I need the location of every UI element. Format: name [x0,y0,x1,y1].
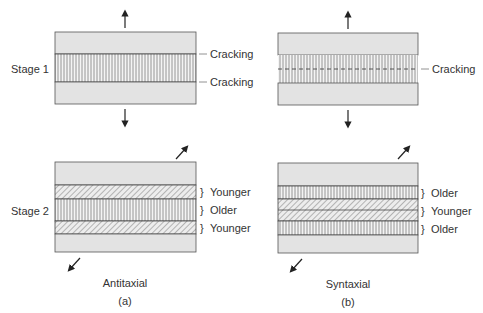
brace-icon: } [200,186,204,198]
stage-2-label: Stage 2 [11,205,49,217]
shear-arrow-down-left-icon [292,259,302,270]
wall-rock-top [55,162,196,185]
older-label-top: Older [431,187,458,199]
panel-a-tag: (a) [118,295,131,307]
younger-label: Younger [431,205,472,217]
brace-icon: } [200,204,204,216]
younger-label-bottom: Younger [210,222,251,234]
panel-b-tag: (b) [341,296,354,308]
younger-fiber-band-top [55,185,196,199]
cracking-label: Cracking [432,63,475,75]
older-fiber-band-bottom [278,221,418,235]
wall-rock-top [55,32,196,54]
panel-b-title: Syntaxial [326,278,371,290]
panel-a-stage-1: Cracking Cracking [55,13,253,124]
older-label-bottom: Older [431,223,458,235]
wall-rock-bottom [278,83,418,105]
fibrous-vein [55,54,196,82]
panel-a-title: Antitaxial [103,277,148,289]
wall-rock-bottom [278,235,418,253]
vein-growth-diagram: Stage 1 Stage 2 Cracking Cracking Cracki… [0,0,483,313]
wall-rock-top [278,33,418,55]
shear-arrow-up-right-icon [398,148,408,159]
cracking-label-bottom: Cracking [210,76,253,88]
stage-1-label: Stage 1 [11,63,49,75]
cracking-label-top: Cracking [210,48,253,60]
brace-icon: } [421,223,425,235]
shear-arrow-down-left-icon [70,258,80,269]
wall-rock-bottom [55,234,196,252]
panel-a-stage-2: } Younger } Older } Younger Antitaxial (… [55,148,251,307]
older-fiber-band [55,199,196,221]
panel-b-stage-1: Cracking [278,14,475,125]
younger-fiber-band-bottom [55,221,196,234]
older-label: Older [210,204,237,216]
shear-arrow-up-right-icon [176,148,186,159]
older-fiber-band-top [278,186,418,199]
wall-rock-bottom [55,82,196,104]
younger-label-top: Younger [210,186,251,198]
brace-icon: } [421,205,425,217]
wall-rock-top [278,163,418,186]
panel-b-stage-2: } Older } Younger } Older Syntaxial (b) [278,148,472,308]
brace-icon: } [200,222,204,234]
brace-icon: } [421,187,425,199]
